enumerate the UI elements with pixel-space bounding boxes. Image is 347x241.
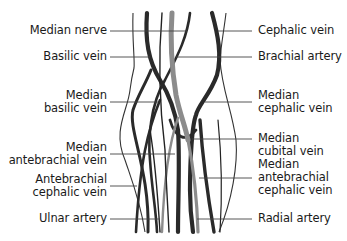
leader-lines-right	[176, 31, 252, 219]
label-antebrachial-cephalic-vein: Antebrachial cephalic vein	[33, 173, 107, 199]
cephalic-vein-path	[190, 13, 219, 232]
label-ulnar-artery: Ulnar artery	[39, 212, 107, 225]
label-median-cephalic-vein: Median cephalic vein	[258, 89, 332, 115]
radial-thin	[218, 120, 221, 232]
label-median-antebrachial-vein: Median antebrachial vein	[9, 141, 107, 167]
label-radial-artery: Radial artery	[258, 212, 331, 225]
label-median-antebrachial-cephalic-vein: Median antebrachial cephalic vein	[258, 158, 332, 197]
label-cephalic-vein: Cephalic vein	[258, 24, 334, 37]
label-median-cubital-vein: Median cubital vein	[258, 132, 324, 158]
label-median-nerve: Median nerve	[30, 24, 107, 37]
label-median-basilic-vein: Median basilic vein	[44, 89, 107, 115]
ulnar-artery-path	[162, 118, 178, 232]
label-brachial-artery: Brachial artery	[258, 50, 342, 63]
label-basilic-vein: Basilic vein	[43, 50, 107, 63]
median-antebrachial-cephalic-path	[200, 120, 214, 232]
